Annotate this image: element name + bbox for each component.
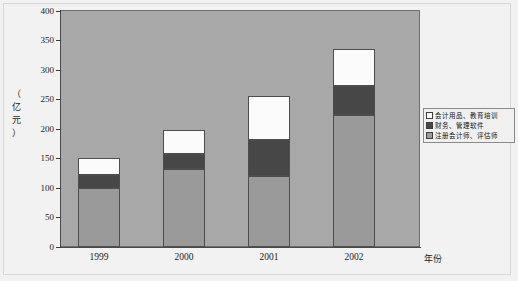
y-tick-label-350: 350 bbox=[20, 36, 54, 45]
x-tick-label-2001: 2001 bbox=[234, 252, 304, 263]
x-tick-label-2002: 2002 bbox=[319, 252, 389, 263]
bar-1999 bbox=[78, 158, 120, 247]
bar-2000-segment-finance-software bbox=[163, 154, 205, 169]
bar-2002-segment-cpa-appraiser bbox=[333, 115, 375, 247]
bar-1999-segment-accounting-supplies bbox=[78, 158, 120, 175]
y-axis-title-char-1: 亿 bbox=[8, 101, 24, 114]
y-tick-label-100: 100 bbox=[20, 184, 54, 193]
bar-2000-segment-accounting-supplies bbox=[163, 130, 205, 154]
y-tick-mark-250 bbox=[56, 99, 61, 100]
bar-2001-segment-accounting-supplies bbox=[248, 96, 290, 140]
bar-2002 bbox=[333, 49, 375, 247]
y-axis-title: （ 亿 元 ） bbox=[8, 88, 24, 140]
legend-swatch-icon-cpa-appraiser bbox=[426, 132, 433, 139]
bar-2002-segment-accounting-supplies bbox=[333, 49, 375, 86]
y-tick-mark-100 bbox=[56, 188, 61, 189]
legend-item-cpa-appraiser: 注册会计师、评估师 bbox=[426, 131, 512, 140]
x-axis-title: 年份 bbox=[424, 252, 442, 265]
y-tick-label-150: 150 bbox=[20, 154, 54, 163]
legend-swatch-icon-accounting-supplies bbox=[426, 112, 433, 119]
y-tick-mark-0 bbox=[56, 247, 61, 248]
bar-2001-segment-finance-software bbox=[248, 140, 290, 176]
y-axis-title-char-3: ） bbox=[8, 127, 24, 140]
y-axis-title-char-0: （ bbox=[8, 88, 24, 101]
bar-2000 bbox=[163, 130, 205, 247]
y-tick-label-50: 50 bbox=[20, 213, 54, 222]
legend-label-finance-software: 财务、管理软件 bbox=[435, 122, 484, 130]
y-axis-title-char-2: 元 bbox=[8, 114, 24, 127]
y-tick-mark-150 bbox=[56, 158, 61, 159]
y-tick-label-400: 400 bbox=[20, 7, 54, 16]
y-tick-mark-350 bbox=[56, 40, 61, 41]
legend-item-finance-software: 财务、管理软件 bbox=[426, 121, 512, 130]
chart-container: 0 50 100 150 200 250 300 350 400 （ 亿 元 ） bbox=[0, 0, 518, 281]
legend-label-accounting-supplies: 会计用品、教育培训 bbox=[435, 112, 498, 120]
y-tick-mark-50 bbox=[56, 217, 61, 218]
x-tick-label-2000: 2000 bbox=[149, 252, 219, 263]
y-tick-label-200: 200 bbox=[20, 125, 54, 134]
bar-2000-segment-cpa-appraiser bbox=[163, 169, 205, 247]
bar-2001 bbox=[248, 96, 290, 247]
legend-item-accounting-supplies: 会计用品、教育培训 bbox=[426, 111, 512, 120]
y-tick-label-0: 0 bbox=[20, 243, 54, 252]
y-tick-mark-200 bbox=[56, 129, 61, 130]
bar-1999-segment-finance-software bbox=[78, 175, 120, 188]
y-tick-mark-400 bbox=[56, 11, 61, 12]
chart-legend: 会计用品、教育培训 财务、管理软件 注册会计师、评估师 bbox=[423, 108, 515, 143]
bar-2001-segment-cpa-appraiser bbox=[248, 176, 290, 247]
legend-swatch-icon-finance-software bbox=[426, 122, 433, 129]
x-axis-line bbox=[60, 247, 421, 248]
bar-2002-segment-finance-software bbox=[333, 86, 375, 115]
bar-1999-segment-cpa-appraiser bbox=[78, 188, 120, 247]
legend-label-cpa-appraiser: 注册会计师、评估师 bbox=[435, 132, 498, 140]
x-tick-label-1999: 1999 bbox=[64, 252, 134, 263]
y-tick-label-250: 250 bbox=[20, 95, 54, 104]
y-tick-mark-300 bbox=[56, 70, 61, 71]
y-tick-label-300: 300 bbox=[20, 66, 54, 75]
